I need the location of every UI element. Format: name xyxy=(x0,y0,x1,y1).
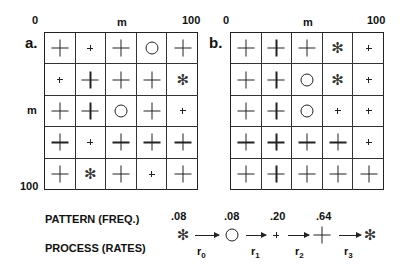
large-plus-icon xyxy=(143,102,160,119)
grid-cell xyxy=(45,159,76,190)
panel-b-x-start: 0 xyxy=(223,15,229,26)
large-plus-icon xyxy=(51,102,68,119)
large-plus-icon xyxy=(329,166,346,183)
large-plus-icon xyxy=(298,40,315,57)
grid-cell xyxy=(323,127,354,158)
large-plus-icon xyxy=(51,40,68,57)
grid-cell xyxy=(167,33,198,64)
process-label: PROCESS (RATES) xyxy=(45,243,146,254)
large-plus-icon xyxy=(298,134,315,151)
circle-icon xyxy=(226,229,239,242)
large-plus-icon xyxy=(143,71,160,88)
grid-cell xyxy=(137,127,168,158)
grid-cell xyxy=(45,64,76,95)
large-plus-icon xyxy=(112,40,129,57)
grid-cell xyxy=(262,33,293,64)
grid-cell xyxy=(137,159,168,190)
panel-b-label: b. xyxy=(209,35,222,50)
grid-cell xyxy=(231,33,262,64)
small-plus-icon xyxy=(87,139,93,145)
arrow-right-icon xyxy=(339,235,361,236)
rate-label: r3 xyxy=(344,245,353,260)
grid-cell xyxy=(231,64,262,95)
grid-cell xyxy=(137,64,168,95)
small-plus-icon xyxy=(180,108,186,114)
circle-icon xyxy=(300,73,313,86)
pattern-label: PATTERN (FREQ.) xyxy=(45,214,139,225)
panel-a-grid: ✻✻ xyxy=(44,32,198,190)
grid-cell xyxy=(45,33,76,64)
grid-cell xyxy=(292,96,323,127)
small-plus-icon xyxy=(366,77,372,83)
circle-icon xyxy=(145,42,158,55)
arrow-right-icon xyxy=(288,235,309,236)
grid-cell xyxy=(353,96,384,127)
panel-b-x-end: 100 xyxy=(367,15,385,26)
freq-3: .64 xyxy=(316,211,331,222)
grid-cell xyxy=(262,127,293,158)
grid-cell xyxy=(353,64,384,95)
grid-cell xyxy=(106,33,137,64)
panel-a-x-start: 0 xyxy=(32,15,38,26)
asterisk-icon: ✻ xyxy=(177,228,190,243)
large-plus-icon xyxy=(112,134,129,151)
grid-cell xyxy=(45,127,76,158)
grid-cell xyxy=(76,33,107,64)
large-plus-icon xyxy=(237,134,254,151)
large-plus-icon xyxy=(268,166,285,183)
grid-cell xyxy=(292,159,323,190)
rate-label: r0 xyxy=(197,245,206,260)
grid-cell xyxy=(167,96,198,127)
large-plus-icon xyxy=(314,227,331,244)
large-plus-icon xyxy=(82,71,99,88)
panel-b-grid: ✻✻ xyxy=(230,32,384,190)
asterisk-icon: ✻ xyxy=(331,72,344,87)
grid-cell xyxy=(262,96,293,127)
large-plus-icon xyxy=(268,71,285,88)
large-plus-icon xyxy=(237,71,254,88)
panel-b-x-mid: m xyxy=(303,17,313,28)
grid-cell xyxy=(323,159,354,190)
asterisk-icon: ✻ xyxy=(331,41,344,56)
large-plus-icon xyxy=(112,166,129,183)
grid-cell xyxy=(292,127,323,158)
freq-0: .08 xyxy=(171,211,186,222)
freq-1: .08 xyxy=(224,211,239,222)
grid-cell xyxy=(262,159,293,190)
panel-a-x-end: 100 xyxy=(182,15,200,26)
grid-cell xyxy=(231,127,262,158)
large-plus-icon xyxy=(51,166,68,183)
panel-a-x-mid: m xyxy=(117,17,127,28)
grid-cell xyxy=(137,96,168,127)
asterisk-icon: ✻ xyxy=(176,72,189,87)
large-plus-icon xyxy=(237,40,254,57)
large-plus-icon xyxy=(268,102,285,119)
grid-cell xyxy=(167,159,198,190)
large-plus-icon xyxy=(82,102,99,119)
grid-cell xyxy=(292,64,323,95)
small-plus-icon xyxy=(366,139,372,145)
small-plus-icon xyxy=(57,77,63,83)
grid-cell: ✻ xyxy=(323,64,354,95)
grid-cell xyxy=(353,33,384,64)
large-plus-icon xyxy=(143,134,160,151)
large-plus-icon xyxy=(174,40,191,57)
circle-icon xyxy=(300,104,313,117)
large-plus-icon xyxy=(237,102,254,119)
large-plus-icon xyxy=(112,71,129,88)
panel-a-y-mid: m xyxy=(27,105,37,116)
grid-cell xyxy=(106,159,137,190)
rate-label: r1 xyxy=(251,245,260,260)
grid-cell xyxy=(106,96,137,127)
grid-cell xyxy=(137,33,168,64)
freq-2: .20 xyxy=(270,211,285,222)
grid-cell xyxy=(262,64,293,95)
grid-cell xyxy=(231,159,262,190)
panel-a-y-end: 100 xyxy=(20,181,38,192)
panel-a-label: a. xyxy=(25,35,38,50)
grid-cell xyxy=(353,159,384,190)
grid-cell xyxy=(76,96,107,127)
grid-cell: ✻ xyxy=(323,33,354,64)
asterisk-icon: ✻ xyxy=(364,228,377,243)
large-plus-icon xyxy=(174,166,191,183)
